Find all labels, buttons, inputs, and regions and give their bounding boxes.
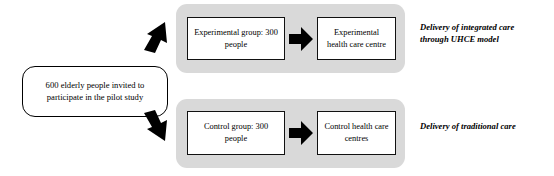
experimental-group-label: Experimental group: 300 people	[188, 27, 284, 50]
experimental-group-box: Experimental group: 300 people	[187, 17, 285, 60]
caption-experimental: Delivery of integrated care through UHCE…	[420, 21, 538, 46]
control-group-label: Control group: 300 people	[188, 121, 284, 144]
caption-control: Delivery of traditional care	[420, 120, 538, 132]
control-centre-label: Control health care centres	[318, 121, 395, 144]
control-group-box: Control group: 300 people	[187, 111, 285, 155]
control-centre-box: Control health care centres	[317, 111, 396, 155]
arrow-right-icon	[289, 121, 313, 145]
arrow-right-icon	[289, 27, 313, 51]
experimental-centre-box: Experimental health care centre	[317, 17, 396, 60]
source-node-label: 600 elderly people invited to participat…	[23, 80, 167, 104]
arrow-up-right-icon	[143, 22, 177, 54]
experimental-centre-label: Experimental health care centre	[318, 27, 395, 50]
arrow-down-right-icon	[143, 110, 177, 142]
flowchart-diagram: 600 elderly people invited to participat…	[0, 0, 554, 176]
